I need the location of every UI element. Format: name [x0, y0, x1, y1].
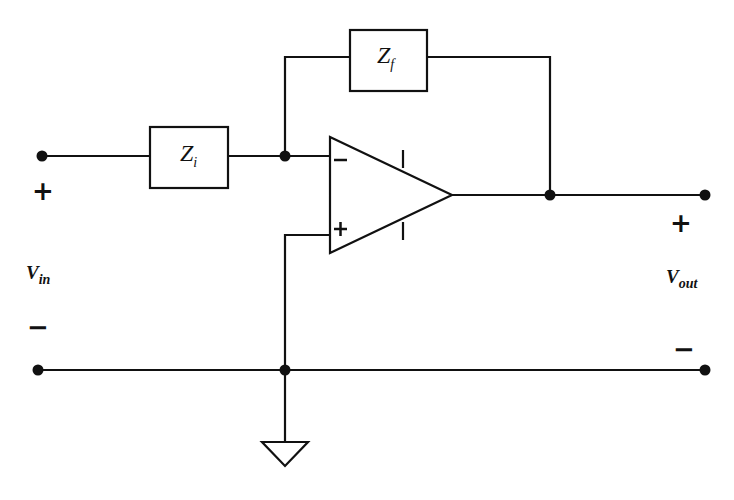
output-terminal-bottom[interactable] — [700, 365, 711, 376]
vout-label: Vout — [666, 266, 697, 292]
input-terminal-bottom[interactable] — [33, 365, 44, 376]
vin-subscript: in — [39, 272, 51, 287]
feedback-impedance-label: Zf — [377, 42, 394, 73]
vout-symbol: V — [666, 266, 679, 287]
input-terminal-top[interactable] — [37, 151, 48, 162]
vout-subscript: out — [679, 276, 698, 291]
zf-symbol: Z — [377, 42, 390, 68]
vout-plus-sign: + — [670, 208, 692, 238]
output-terminal-top[interactable] — [700, 190, 711, 201]
junction-ground — [280, 365, 291, 376]
vin-symbol: V — [26, 262, 39, 283]
zf-subscript: f — [390, 57, 394, 72]
vin-plus-sign: + — [32, 176, 54, 206]
junction-output — [545, 190, 556, 201]
vin-label: Vin — [26, 262, 50, 288]
circuit-diagram — [0, 0, 734, 500]
zi-symbol: Z — [180, 140, 193, 166]
noninverting-input-wire — [285, 235, 330, 370]
opamp-triangle — [330, 137, 452, 253]
vout-minus-sign: − — [673, 334, 695, 364]
input-impedance-label: Zi — [180, 140, 197, 171]
junction-inverting — [280, 151, 291, 162]
ground-icon — [262, 442, 308, 466]
feedback-wire-right — [427, 57, 550, 195]
zi-subscript: i — [193, 155, 197, 170]
vin-minus-sign: − — [27, 312, 49, 342]
